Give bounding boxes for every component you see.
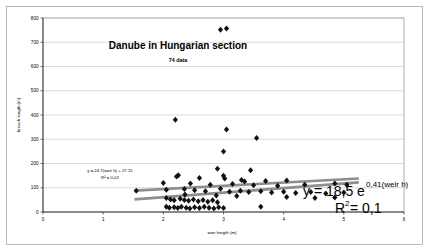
y-tick-label: 300 [31, 137, 39, 142]
linear-fit-equation: y = 24.7(weir h) + 27.15 [87, 168, 133, 173]
x-tick-label: 0 [42, 217, 45, 222]
y-axis-title: breach length (m) [16, 97, 21, 132]
chart-subtitle: 74 data [169, 57, 189, 63]
x-tick-label: 2 [162, 217, 165, 222]
exponential-fit-exponent: 0,41(weir h) [366, 180, 409, 189]
y-tick-label: 0 [36, 210, 39, 215]
y-tick-label: 500 [31, 88, 39, 93]
scatter-chart: 0100200300400500600700800 0123456 Danube… [0, 0, 429, 251]
exponential-fit-r2-value: = 0,1 [350, 200, 382, 216]
y-tick-label: 400 [31, 113, 39, 118]
x-tick-label: 3 [222, 217, 225, 222]
chart-canvas: 0100200300400500600700800 0123456 Danube… [0, 0, 429, 251]
y-tick-label: 800 [31, 16, 39, 21]
exponential-fit-equation: y = 18,5 e [303, 183, 365, 199]
x-tick-label: 5 [343, 217, 346, 222]
linear-fit-r2: R² = 0,02 [101, 175, 119, 180]
y-tick-label: 200 [31, 161, 39, 166]
y-tick-label: 700 [31, 40, 39, 45]
x-tick-label: 4 [282, 217, 285, 222]
exponential-fit-r2-symbol: R [335, 200, 345, 216]
y-tick-label: 100 [31, 185, 39, 190]
x-axis-title: weir heigth (m) [207, 230, 237, 235]
x-tick-label: 6 [403, 217, 406, 222]
x-tick-label: 1 [102, 217, 105, 222]
chart-title: Danube in Hungarian section [109, 40, 247, 51]
y-tick-label: 600 [31, 64, 39, 69]
